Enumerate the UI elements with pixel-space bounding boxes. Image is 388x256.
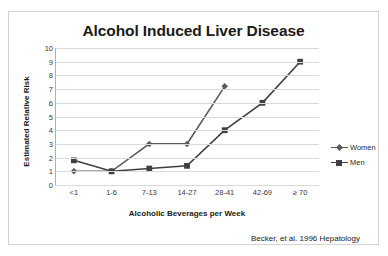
gridline (55, 171, 319, 172)
x-axis-title: Alcoholic Beverages per Week (55, 209, 319, 218)
y-tick-label: 5 (37, 112, 53, 121)
y-tick-label: 3 (37, 139, 53, 148)
y-axis-tick-labels: 109876543210 (35, 48, 53, 185)
gridline (55, 48, 319, 49)
y-tick-label: 2 (37, 153, 53, 162)
gridline (55, 89, 319, 90)
gridline (55, 103, 319, 104)
gridline (55, 144, 319, 145)
y-tick-label: 10 (37, 44, 53, 53)
gridline (55, 117, 319, 118)
legend-marker-icon (331, 158, 348, 167)
plot-gridlines (55, 48, 319, 185)
y-axis-title: Estimated Relative Risk (22, 67, 31, 177)
chart-title: Alcohol Induced Liver Disease (9, 22, 378, 40)
y-tick-label: 1 (37, 167, 53, 176)
plot-area (55, 48, 319, 185)
chart-legend: WomenMen (331, 140, 388, 170)
gridline (55, 158, 319, 159)
legend-marker-icon (331, 143, 348, 152)
y-tick-label: 7 (37, 85, 53, 94)
y-tick-label: 0 (37, 181, 53, 190)
chart-frame: Alcohol Induced Liver Disease Estimated … (8, 11, 379, 245)
gridline (55, 62, 319, 63)
y-tick-label: 8 (37, 71, 53, 80)
y-tick-label: 9 (37, 57, 53, 66)
gridline (55, 75, 319, 76)
legend-label: Women (348, 143, 376, 152)
gridline (55, 130, 319, 131)
x-axis-tick-labels: <11-67-1314-2728-4142-69≥ 70 (55, 188, 319, 202)
legend-item-women[interactable]: Women (331, 140, 388, 155)
x-tick-label: ≥ 70 (278, 188, 322, 197)
y-axis-line (55, 48, 56, 185)
legend-marker-square-icon (336, 160, 342, 166)
screenshot-root: Alcohol Induced Liver Disease Estimated … (0, 0, 388, 256)
legend-label: Men (348, 158, 365, 167)
y-tick-label: 6 (37, 98, 53, 107)
citation-text: Becker, et al. 1996 Hepatology (251, 234, 360, 243)
gridline (55, 185, 319, 186)
legend-item-men[interactable]: Men (331, 155, 388, 170)
y-tick-label: 4 (37, 126, 53, 135)
legend-marker-diamond-icon (335, 143, 342, 150)
